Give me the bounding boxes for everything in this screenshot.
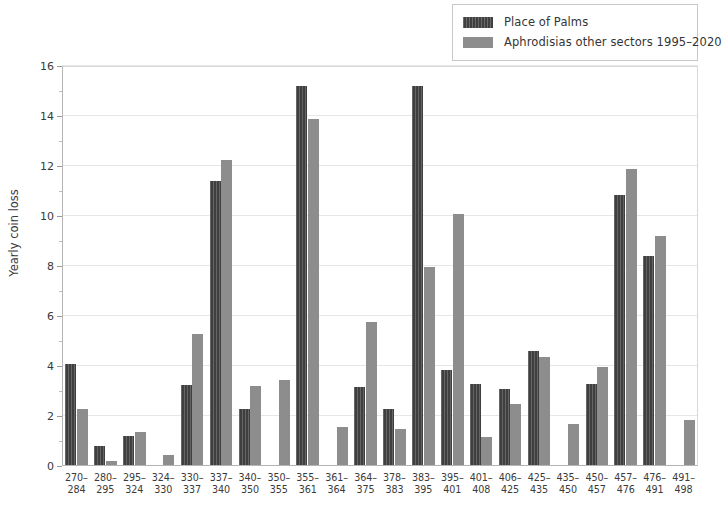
y-tick-label-14: 14	[6, 111, 54, 122]
bar-other-sectors	[539, 357, 550, 466]
bar-place-of-palms	[528, 351, 539, 466]
bar-group	[409, 66, 438, 466]
bar-other-sectors	[77, 409, 88, 467]
legend-swatch-dark	[463, 17, 493, 28]
bar-place-of-palms	[94, 446, 105, 466]
y-tick-label-8: 8	[6, 261, 54, 272]
bar-place-of-palms	[441, 370, 452, 466]
bar-place-of-palms	[123, 436, 134, 466]
legend-label-place-of-palms: Place of Palms	[504, 15, 588, 29]
bar-group	[582, 66, 611, 466]
bar-other-sectors	[221, 160, 232, 466]
bar-group	[525, 66, 554, 466]
bar-place-of-palms	[210, 181, 221, 466]
bar-other-sectors	[163, 455, 174, 466]
bar-other-sectors	[366, 322, 377, 466]
bar-place-of-palms	[296, 86, 307, 466]
bar-place-of-palms	[412, 86, 423, 466]
plot-area	[62, 66, 698, 466]
bar-place-of-palms	[499, 389, 510, 467]
bar-place-of-palms	[643, 256, 654, 466]
y-tick-label-6: 6	[6, 311, 54, 322]
legend-entry-place-of-palms: Place of Palms	[463, 12, 687, 32]
bar-group	[322, 66, 351, 466]
y-tick-label-4: 4	[6, 361, 54, 372]
legend-swatch-light	[463, 37, 493, 48]
y-tick-mark-0	[57, 466, 62, 467]
y-tick-label-16: 16	[6, 61, 54, 72]
bar-other-sectors	[279, 380, 290, 466]
bar-other-sectors	[106, 461, 117, 466]
bar-place-of-palms	[470, 384, 481, 467]
bar-other-sectors	[568, 424, 579, 467]
bar-other-sectors	[337, 427, 348, 466]
bar-other-sectors	[655, 236, 666, 466]
bar-other-sectors	[510, 404, 521, 467]
bar-group	[178, 66, 207, 466]
chart-legend: Place of Palms Aphrodisias other sectors…	[452, 4, 698, 61]
figure-caption	[60, 500, 660, 512]
y-tick-label-12: 12	[6, 161, 54, 172]
y-tick-label-10: 10	[6, 211, 54, 222]
legend-entry-aphrodisias-other-sectors: Aphrodisias other sectors 1995–2020	[463, 32, 687, 52]
bar-other-sectors	[481, 437, 492, 466]
bar-other-sectors	[453, 214, 464, 467]
bar-group	[438, 66, 467, 466]
bar-other-sectors	[192, 334, 203, 467]
bar-group	[553, 66, 582, 466]
bar-place-of-palms	[586, 384, 597, 467]
bar-group	[467, 66, 496, 466]
legend-label-aphrodisias-other-sectors: Aphrodisias other sectors 1995–2020	[504, 35, 722, 49]
bar-group	[91, 66, 120, 466]
bar-place-of-palms	[65, 364, 76, 467]
bar-group	[149, 66, 178, 466]
bar-place-of-palms	[354, 387, 365, 466]
bar-other-sectors	[250, 386, 261, 466]
bar-group	[120, 66, 149, 466]
bar-other-sectors	[424, 267, 435, 466]
bar-other-sectors	[597, 367, 608, 466]
bar-group	[669, 66, 698, 466]
bar-group	[611, 66, 640, 466]
y-tick-label-2: 2	[6, 411, 54, 422]
bar-group	[293, 66, 322, 466]
bar-group	[62, 66, 91, 466]
bar-other-sectors	[135, 432, 146, 466]
bar-place-of-palms	[239, 409, 250, 467]
bar-group	[380, 66, 409, 466]
bar-other-sectors	[308, 119, 319, 467]
bar-other-sectors	[626, 169, 637, 467]
bar-group	[264, 66, 293, 466]
bar-place-of-palms	[383, 409, 394, 467]
bar-place-of-palms	[181, 385, 192, 466]
bar-group	[640, 66, 669, 466]
bar-group	[351, 66, 380, 466]
bar-place-of-palms	[614, 195, 625, 466]
bar-group	[235, 66, 264, 466]
x-tick-label: 491–498	[666, 472, 701, 495]
y-tick-label-0: 0	[6, 461, 54, 472]
bar-other-sectors	[684, 420, 695, 466]
bar-group	[496, 66, 525, 466]
bar-group	[207, 66, 236, 466]
bar-other-sectors	[395, 429, 406, 467]
